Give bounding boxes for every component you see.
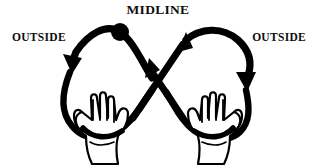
midline-dot bbox=[111, 23, 129, 41]
diagram-canvas: MIDLINE OUTSIDE OUTSIDE bbox=[0, 0, 316, 166]
centre-stroke-up-left bbox=[152, 72, 183, 118]
right-hand bbox=[188, 92, 242, 164]
right-loop-upper-arc bbox=[186, 30, 250, 76]
centre-crossing bbox=[133, 32, 193, 118]
figure-eight-artwork bbox=[0, 0, 316, 166]
left-hand bbox=[74, 92, 128, 164]
